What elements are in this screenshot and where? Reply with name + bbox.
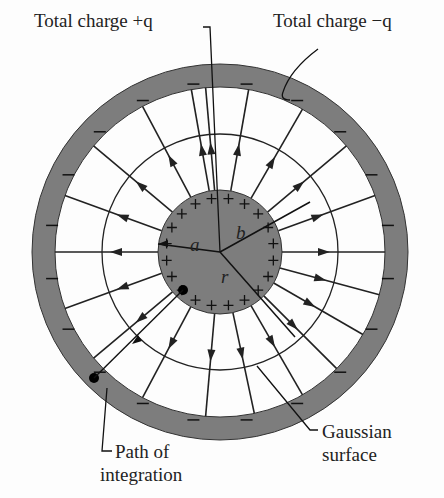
field-arrow-icon [266,157,275,169]
field-line [267,146,346,212]
field-arrow-icon [318,248,330,256]
label-radius-a: a [190,234,200,255]
label-radius-r: r [221,266,228,287]
field-arrow-icon [266,335,275,347]
field-arrow-icon [168,337,177,349]
field-arrow-icon [314,274,327,282]
field-arrow-icon [110,248,122,256]
inner-charge-text: Total charge +q [34,10,153,31]
field-line [143,106,191,197]
field-line [264,296,337,369]
field-arrow-icon [311,214,324,222]
field-line [280,268,379,295]
field-arrow-icon [207,142,215,154]
label-gauss-line2: surface [322,444,377,465]
label-gauss-line1: Gaussian [322,421,392,442]
field-arrow-icon [303,298,315,307]
field-line [251,306,303,395]
label-path-line1: Path of [115,441,169,462]
diagram-canvas: Total charge +q Total charge −q a b r Pa… [0,0,444,498]
field-line [206,314,215,417]
field-arrow-icon [199,144,207,157]
field-line [251,109,303,198]
label-inner-charge: Total charge +q [34,10,153,31]
label-path-line2: integration [100,464,182,485]
field-line [274,283,363,335]
field-line [94,146,173,212]
field-arrow-icon [168,155,177,167]
field-arrow-icon [117,214,130,222]
label-outer-charge: Total charge −q [273,10,392,31]
field-arrow-icon [117,282,130,290]
label-radius-b: b [236,222,246,243]
path-of-integration-line [94,290,183,378]
field-line [231,90,249,191]
outer-charge-text: Total charge −q [273,10,392,31]
field-line [233,313,254,414]
field-arrow-icon [207,349,215,361]
field-arrow-icon [233,144,241,157]
field-line [94,292,173,358]
field-line [143,307,191,398]
